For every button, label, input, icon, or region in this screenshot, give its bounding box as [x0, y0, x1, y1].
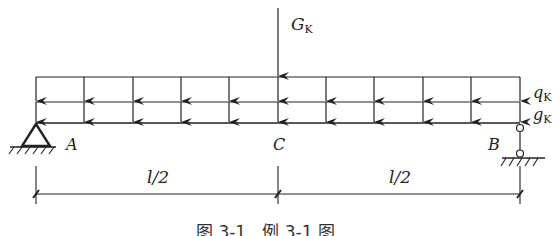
dimension-label-cb: l/2	[389, 167, 411, 187]
point-label-b: B	[487, 135, 500, 154]
pin-support-icon	[9, 124, 56, 154]
roller-support-icon	[501, 125, 545, 167]
label-gk: GK	[291, 14, 314, 36]
label-gk-lower: gK	[533, 105, 552, 126]
point-label-c: C	[273, 135, 285, 154]
dimension-lines	[33, 166, 523, 204]
figure-caption: 图 3-1 例 3-1 图	[196, 222, 335, 236]
distributed-load-qk	[36, 77, 520, 101]
beam-diagram: GK qK gK A C B l/2 l/2 图 3-1 例 3-1 图	[0, 0, 557, 236]
distributed-load-gk	[36, 102, 520, 122]
dimension-label-ac: l/2	[147, 167, 169, 187]
point-label-a: A	[64, 135, 78, 154]
label-qk: qK	[533, 83, 552, 104]
